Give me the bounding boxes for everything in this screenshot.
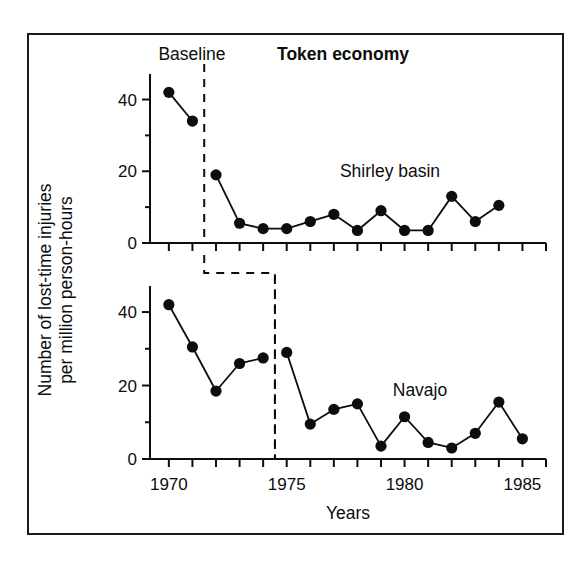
- x-tick-label: 1980: [386, 475, 424, 494]
- data-point-marker[interactable]: [517, 433, 528, 444]
- series-label: Shirley basin: [340, 161, 440, 181]
- phase-change-lines: [204, 64, 275, 459]
- figure-root: BaselineToken economyNumber of lost-time…: [0, 0, 587, 563]
- data-point-marker[interactable]: [234, 218, 245, 229]
- data-point-marker[interactable]: [187, 115, 198, 126]
- data-point-marker[interactable]: [328, 404, 339, 415]
- data-point-marker[interactable]: [210, 385, 221, 396]
- x-tick-label: 1975: [268, 475, 306, 494]
- data-point-marker[interactable]: [163, 299, 174, 310]
- y-tick-label: 40: [118, 91, 137, 110]
- y-tick-label: 20: [118, 377, 137, 396]
- panel-shirley-basin: 02040Shirley basin: [118, 74, 546, 253]
- data-line-treatment: [287, 352, 523, 448]
- y-axis-title-line2: per million person-hours: [56, 196, 76, 384]
- panel-navajo: 020401970197519801985Navajo: [118, 286, 546, 494]
- data-point-marker[interactable]: [352, 225, 363, 236]
- data-point-marker[interactable]: [446, 442, 457, 453]
- baseline-phase-label: Baseline: [158, 44, 225, 64]
- data-point-marker[interactable]: [446, 191, 457, 202]
- y-tick-label: 0: [128, 234, 137, 253]
- data-point-marker[interactable]: [399, 411, 410, 422]
- data-point-marker[interactable]: [187, 341, 198, 352]
- data-point-marker[interactable]: [234, 358, 245, 369]
- x-tick-label: 1970: [150, 475, 188, 494]
- data-point-marker[interactable]: [470, 428, 481, 439]
- y-axis-title-text: Number of lost-time injuriesper million …: [35, 183, 76, 396]
- data-point-marker[interactable]: [493, 396, 504, 407]
- chart-canvas: BaselineToken economyNumber of lost-time…: [0, 0, 587, 563]
- data-point-marker[interactable]: [305, 216, 316, 227]
- series-label: Navajo: [393, 380, 447, 400]
- data-point-marker[interactable]: [423, 437, 434, 448]
- data-point-marker[interactable]: [258, 352, 269, 363]
- data-point-marker[interactable]: [399, 225, 410, 236]
- data-point-marker[interactable]: [210, 169, 221, 180]
- data-point-marker[interactable]: [493, 200, 504, 211]
- token-economy-phase-label: Token economy: [277, 44, 409, 64]
- data-point-marker[interactable]: [281, 347, 292, 358]
- x-axis-title-text: Years: [326, 503, 370, 523]
- data-line-treatment: [216, 175, 499, 231]
- y-tick-label: 20: [118, 162, 137, 181]
- data-point-marker[interactable]: [470, 216, 481, 227]
- y-tick-label: 0: [128, 450, 137, 469]
- data-point-marker[interactable]: [375, 441, 386, 452]
- data-point-marker[interactable]: [281, 223, 292, 234]
- data-point-marker[interactable]: [258, 223, 269, 234]
- data-point-marker[interactable]: [305, 418, 316, 429]
- data-point-marker[interactable]: [163, 87, 174, 98]
- phase-header-row: BaselineToken economy: [158, 44, 409, 64]
- x-axis-title: Years: [326, 503, 370, 523]
- y-axis-title: Number of lost-time injuriesper million …: [35, 183, 76, 396]
- data-point-marker[interactable]: [423, 225, 434, 236]
- data-point-marker[interactable]: [352, 398, 363, 409]
- y-tick-label: 40: [118, 303, 137, 322]
- data-line-baseline: [169, 305, 263, 391]
- x-tick-label: 1985: [504, 475, 542, 494]
- y-axis-title-line1: Number of lost-time injuries: [35, 183, 55, 396]
- data-point-marker[interactable]: [375, 205, 386, 216]
- data-point-marker[interactable]: [328, 209, 339, 220]
